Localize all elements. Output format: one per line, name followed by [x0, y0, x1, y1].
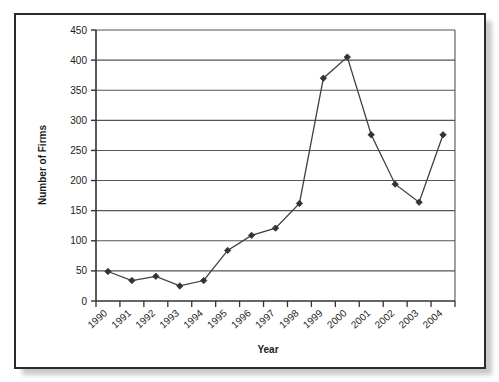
data-point-marker	[129, 277, 135, 283]
data-point-marker	[440, 132, 446, 138]
x-axis-tick-label: 2003	[397, 307, 421, 330]
y-axis-tick-label: 250	[70, 145, 87, 156]
y-axis-tick-label: 50	[76, 265, 88, 276]
y-axis-tick-label: 0	[81, 296, 87, 307]
x-axis-tick-label: 1999	[301, 307, 325, 330]
chart-canvas: 050100150200250300350400450 199019911992…	[0, 0, 499, 382]
x-axis-tick-label: 2000	[325, 307, 349, 330]
data-series-markers	[105, 54, 446, 289]
data-series-line	[108, 57, 443, 286]
y-axis-tick-label: 450	[70, 25, 87, 36]
data-point-marker	[177, 283, 183, 289]
x-axis-title: Year	[257, 344, 278, 355]
x-axis-tick-label: 1997	[253, 307, 277, 330]
x-axis-tick-label: 1995	[205, 307, 229, 330]
x-axis-tick-labels: 1990199119921993199419951996199719981999…	[85, 307, 444, 330]
y-axis-tick-label: 300	[70, 115, 87, 126]
x-axis-tick-label: 1998	[277, 307, 301, 330]
figure-root: 050100150200250300350400450 199019911992…	[0, 0, 499, 382]
y-axis-tick-label: 400	[70, 55, 87, 66]
line-chart: 050100150200250300350400450 199019911992…	[0, 0, 499, 382]
y-axis-tick-label: 350	[70, 85, 87, 96]
x-axis-tick-label: 2004	[420, 307, 444, 330]
x-axis-tick-label: 1991	[109, 307, 133, 330]
y-axis-tick-label: 150	[70, 205, 87, 216]
data-point-marker	[105, 268, 111, 274]
x-axis-ticks	[96, 301, 455, 307]
x-axis-tick-label: 1996	[229, 307, 253, 330]
x-axis-tick-label: 1990	[85, 307, 109, 330]
data-point-marker	[153, 273, 159, 279]
y-axis-tick-label: 100	[70, 235, 87, 246]
data-point-marker	[248, 232, 254, 238]
gridlines-horizontal	[96, 30, 455, 271]
y-axis-title: Number of Firms	[37, 125, 48, 205]
x-axis-tick-label: 1993	[157, 307, 181, 330]
x-axis-tick-label: 2001	[349, 307, 373, 330]
y-axis-tick-labels: 050100150200250300350400450	[70, 25, 87, 307]
y-axis-tick-label: 200	[70, 175, 87, 186]
x-axis-tick-label: 1994	[181, 307, 205, 330]
data-point-marker	[368, 132, 374, 138]
x-axis-tick-label: 1992	[133, 307, 157, 330]
x-axis-tick-label: 2002	[373, 307, 397, 330]
